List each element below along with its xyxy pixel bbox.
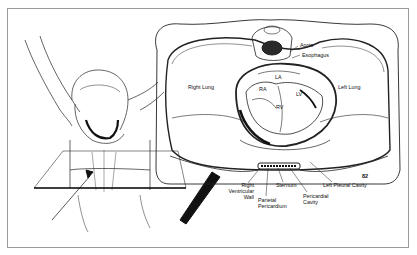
anatomical-illustration [0, 0, 417, 255]
label-rv: RV [276, 104, 283, 110]
label-right-lung: Right Lung [188, 84, 214, 90]
label-ra: RA [259, 86, 267, 92]
label-pericardial-cavity: Pericardial Cavity [303, 193, 328, 205]
label-esophagus: Esophagus [302, 52, 329, 58]
label-left-pleural-cavity: Left Pleural Cavity [323, 182, 367, 188]
figure-number: 82 [362, 173, 368, 179]
label-lv: LV [296, 91, 302, 97]
label-left-lung: Left Lung [338, 84, 360, 90]
label-right-ventricular-wall: Right Ventricular Wall [228, 182, 254, 200]
arrows [52, 170, 220, 224]
label-aorta: Aorta [300, 42, 313, 48]
chest-cross-section [156, 20, 400, 184]
label-sternum: Sternum [276, 182, 296, 188]
label-parietal-pericardium: Parietal Pericardium [258, 197, 287, 209]
label-la: LA [275, 74, 282, 80]
leader-lines [248, 46, 332, 196]
human-figure [25, 36, 164, 232]
